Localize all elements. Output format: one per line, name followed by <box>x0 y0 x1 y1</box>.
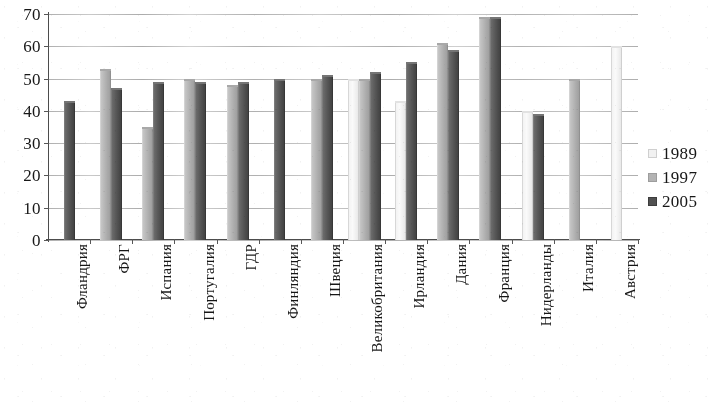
x-axis-label-text: ГДР <box>244 244 259 271</box>
bar-group <box>469 14 511 240</box>
bar <box>533 114 544 240</box>
x-axis-label-text: Италия <box>581 244 596 292</box>
x-axis-label-text: Австрия <box>623 244 638 299</box>
bar <box>490 17 501 240</box>
bar <box>311 79 322 240</box>
y-axis-tick-label: 30 <box>23 135 41 152</box>
x-axis-label: Финляндия <box>286 244 301 319</box>
legend-swatch <box>648 173 657 182</box>
bar-group <box>217 14 259 240</box>
bar-group <box>512 14 554 240</box>
x-axis-label: Испания <box>159 244 174 301</box>
x-axis-label-text: Португалия <box>202 244 217 321</box>
bar-chart: 010203040506070 ФландрияФРГИспанияПортуг… <box>0 0 715 406</box>
bar-group <box>132 14 174 240</box>
bar-group <box>596 14 638 240</box>
x-axis-label: Австрия <box>623 244 638 299</box>
x-axis-label: Италия <box>581 244 596 292</box>
bar <box>479 17 490 240</box>
bar-group <box>90 14 132 240</box>
x-axis-label: ГДР <box>244 244 259 271</box>
x-axis-label-text: Фландрия <box>75 244 90 309</box>
y-axis-tick-label: 20 <box>23 167 41 184</box>
y-axis-tick-label: 10 <box>23 199 41 216</box>
y-axis-tick-label: 50 <box>23 70 41 87</box>
bar-group <box>554 14 596 240</box>
bar <box>611 46 622 240</box>
bar-group <box>174 14 216 240</box>
x-axis-label-text: Нидерланды <box>539 244 554 326</box>
x-axis-label: ФРГ <box>117 244 132 273</box>
legend-item[interactable]: 1997 <box>648 165 712 189</box>
plot-area: 010203040506070 <box>48 14 638 240</box>
bar-groups <box>48 14 638 240</box>
bar-group <box>48 14 90 240</box>
bar-group <box>385 14 427 240</box>
x-axis-label-text: Ирландия <box>412 244 427 308</box>
chart-legend: 198919972005 <box>648 141 712 213</box>
bar <box>274 79 285 240</box>
x-axis-label: Швеция <box>328 244 343 297</box>
bar-group <box>427 14 469 240</box>
x-axis-label-text: Швеция <box>328 244 343 297</box>
bar <box>153 82 164 240</box>
x-axis-labels: ФландрияФРГИспанияПортугалияГДРФинляндия… <box>48 244 638 364</box>
bar-group <box>259 14 301 240</box>
bar <box>359 79 370 240</box>
y-axis-tick-label: 60 <box>23 38 41 55</box>
bar <box>142 127 153 240</box>
x-axis-label-text: Франция <box>497 244 512 302</box>
legend-swatch <box>648 197 657 206</box>
x-axis-label: Франция <box>497 244 512 302</box>
bar-group <box>343 14 385 240</box>
x-axis-label-text: Испания <box>159 244 174 301</box>
legend-item[interactable]: 2005 <box>648 189 712 213</box>
x-axis-tick <box>638 239 639 244</box>
x-axis-label: Ирландия <box>412 244 427 308</box>
legend-swatch <box>648 149 657 158</box>
y-axis-tick <box>44 240 49 241</box>
bar <box>195 82 206 240</box>
x-axis-label-text: Дания <box>454 244 469 285</box>
bar <box>437 43 448 240</box>
bar <box>322 75 333 240</box>
bar <box>227 85 238 240</box>
x-axis-label: Великобритания <box>370 244 385 353</box>
y-axis-tick-label: 40 <box>23 102 41 119</box>
bar <box>111 88 122 240</box>
bar-group <box>301 14 343 240</box>
x-axis-label: Португалия <box>202 244 217 321</box>
legend-label: 2005 <box>662 193 697 210</box>
x-axis-label: Дания <box>454 244 469 285</box>
bar <box>522 111 533 240</box>
x-axis-label-text: Великобритания <box>370 244 385 353</box>
bar <box>238 82 249 240</box>
bar <box>184 79 195 240</box>
bar <box>448 50 459 240</box>
x-axis-label-text: Финляндия <box>286 244 301 319</box>
bar <box>569 79 580 240</box>
y-axis-tick-label: 0 <box>32 232 41 249</box>
bar <box>64 101 75 240</box>
bar <box>370 72 381 240</box>
x-axis-label: Нидерланды <box>539 244 554 326</box>
x-axis-label-text: ФРГ <box>117 244 132 273</box>
bar <box>406 62 417 240</box>
bar <box>348 79 359 240</box>
x-axis-label: Фландрия <box>75 244 90 309</box>
y-axis-tick-label: 70 <box>23 6 41 23</box>
bar <box>100 69 111 240</box>
legend-label: 1997 <box>662 169 697 186</box>
legend-item[interactable]: 1989 <box>648 141 712 165</box>
bar <box>395 101 406 240</box>
legend-label: 1989 <box>662 145 697 162</box>
